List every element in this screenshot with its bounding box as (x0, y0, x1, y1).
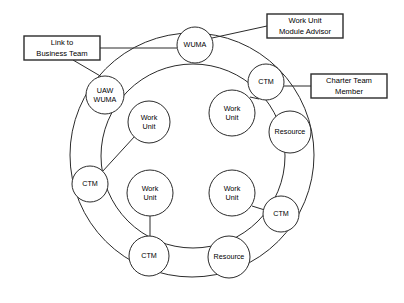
connector-line (102, 136, 135, 172)
node-label: Resource (275, 127, 306, 136)
node-label: UAW (97, 86, 114, 95)
node-label: Work (142, 184, 159, 193)
node-ctm-upper-right[interactable]: CTM (248, 64, 284, 100)
node-uaw-wuma-left[interactable]: UAWWUMA (86, 76, 124, 114)
callout-label: Module Advisor (279, 27, 331, 36)
node-label: Unit (226, 113, 239, 122)
node-work-unit-tl[interactable]: WorkUnit (128, 101, 170, 143)
node-label: Work (141, 113, 158, 122)
callout-label: Charter Team (326, 76, 372, 85)
node-label: Work (224, 184, 241, 193)
callout-work-unit-module-advisor[interactable]: Work UnitModule Advisor (267, 14, 343, 38)
node-group: WUMAUAWWUMACTMResourceCTMResourceCTMCTMW… (72, 27, 311, 278)
node-resource-right[interactable]: Resource (269, 111, 311, 153)
callout-charter-team-member[interactable]: Charter TeamMember (311, 74, 387, 98)
callout-label: Work Unit (288, 16, 322, 25)
node-label: CTM (82, 179, 98, 188)
node-label: Resource (214, 252, 245, 261)
node-resource-bottom[interactable]: Resource (208, 236, 250, 278)
connector-line (73, 60, 102, 77)
callout-label: Business Team (36, 49, 87, 58)
node-ctm-left[interactable]: CTM (72, 166, 108, 202)
connector-line (212, 26, 267, 38)
node-wuma-top[interactable]: WUMA (177, 27, 213, 63)
node-ctm-lower-right[interactable]: CTM (263, 196, 299, 232)
node-ctm-bottom[interactable]: CTM (129, 236, 169, 276)
node-work-unit-bl[interactable]: WorkUnit (127, 170, 173, 216)
node-label: Unit (144, 193, 157, 202)
node-label: CTM (258, 77, 274, 86)
node-label: WUMA (184, 40, 207, 49)
callout-label: Link to (51, 38, 73, 47)
callout-link-to-business-team[interactable]: Link toBusiness Team (24, 36, 100, 60)
node-label: Unit (143, 122, 156, 131)
node-label: CTM (273, 209, 289, 218)
node-work-unit-br[interactable]: WorkUnit (209, 170, 255, 216)
node-label: Work (224, 104, 241, 113)
org-ring-diagram: WUMAUAWWUMACTMResourceCTMResourceCTMCTMW… (0, 0, 404, 303)
diagram-canvas: WUMAUAWWUMACTMResourceCTMResourceCTMCTMW… (0, 0, 404, 303)
callout-label: Member (335, 87, 363, 96)
node-label: Unit (226, 193, 239, 202)
node-label: CTM (141, 251, 157, 260)
node-work-unit-tr[interactable]: WorkUnit (209, 90, 255, 136)
node-label: WUMA (94, 95, 117, 104)
